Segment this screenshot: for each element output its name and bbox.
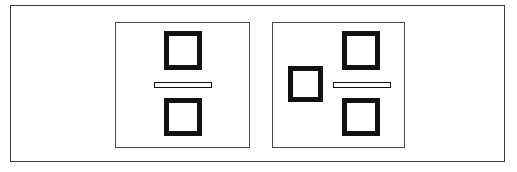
- left-square-top-node: [164, 31, 202, 70]
- right-square-top-node: [342, 31, 380, 70]
- left-horizontal-bar-node: [154, 82, 212, 88]
- diagram-figure: [0, 0, 517, 172]
- right-horizontal-bar-node: [333, 82, 391, 88]
- right-square-side-node: [288, 66, 323, 102]
- left-square-bottom-node: [164, 98, 202, 136]
- right-square-bottom-node: [342, 98, 380, 136]
- outer-frame: [10, 5, 505, 162]
